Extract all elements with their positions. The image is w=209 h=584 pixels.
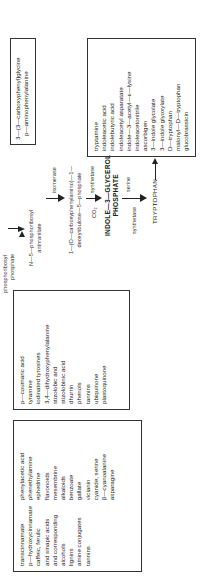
product-item: p—coumaric acid	[18, 296, 26, 404]
product-item: caffeic, ferulic	[34, 506, 42, 566]
product-item: tryptamine	[92, 44, 100, 151]
product-item: mesembrine	[51, 453, 59, 500]
product-item: glucobrassicin	[182, 44, 190, 151]
product-item: indoleacetyl asparatate	[117, 44, 125, 151]
product-item: asparagine	[108, 453, 116, 500]
product-item: 3,4—dihydroxyphenylalanine	[43, 296, 51, 404]
label-line: phosphate	[9, 254, 16, 294]
phosphoribosyl-phosphate: phosphoribosyl phosphate	[2, 254, 16, 294]
arrow-icon	[18, 226, 25, 232]
product-item: plastoquinone	[100, 296, 108, 404]
tyrosine-products-box: p—coumaric acid tyramine iodinated tyros…	[13, 290, 130, 410]
tryptophan: TRYPTOPHAN	[151, 179, 159, 224]
indole-3-glycerol-phosphate: INDOLE—3—GLYCEROL PHOSPHATE	[104, 155, 120, 236]
product-item: tannins	[84, 506, 92, 566]
arrow-right-icon	[155, 160, 156, 180]
product-item: 3—indole glyoxylate	[158, 44, 166, 151]
product-item: phenols	[75, 296, 83, 404]
product-item: indole—3—acetyl—ε—lysine	[125, 44, 133, 151]
product-item: indoleacetic acid	[100, 44, 108, 151]
label-line: 1—(O—carboxyphenylamino)—1—	[68, 166, 76, 254]
label-line: deoxyribulose—5—phosphate	[76, 166, 84, 254]
arrow-down-icon	[22, 233, 23, 234]
n5-phosphoribosyl-anthranilate: N—5—phosphoribosyl anthranilate	[28, 210, 43, 266]
label-line: phosphoribosyl	[2, 254, 9, 294]
product-item: malonyl—D—tryptophan	[174, 44, 182, 151]
product-item: alkaloids	[59, 453, 67, 500]
synthetase-label: synthetase	[130, 207, 138, 234]
product-item: gallate	[75, 453, 83, 500]
synthetase-label: synthetase	[88, 166, 96, 193]
product-item: 3—indole glycolate	[149, 44, 157, 151]
label-line: N—5—phosphoribosyl	[28, 210, 36, 266]
product-item: lignins	[67, 506, 75, 566]
product-item: iodinated tyrosines	[34, 296, 42, 404]
product-item: cyanide, serine	[92, 453, 100, 500]
isomerase-label: isomerase	[50, 167, 58, 193]
product-item: β—cyanoalanine	[100, 453, 108, 500]
label-line: INDOLE—3—GLYCEROL	[104, 155, 112, 236]
arrow-icon	[95, 195, 102, 203]
co2-label: CO₂	[90, 207, 98, 218]
product-item: stizolobinic acid	[59, 296, 67, 404]
label-line: anthranilate	[36, 210, 44, 266]
product-item: alcohols	[59, 506, 67, 566]
pathway-line	[122, 198, 142, 199]
product-item: indolebutyric acid	[108, 44, 116, 151]
biosynthesis-diagram: transcinnamate p—hydroxycinnamate caffei…	[0, 0, 209, 584]
product-item: p—hydroxycinnamate	[26, 506, 34, 566]
tryptophan-products-box: tryptamine indoleacetic acid indolebutyr…	[87, 38, 196, 157]
product-item: vicianin	[84, 453, 92, 500]
product-item: amine conjugates	[75, 506, 83, 566]
product-item: dhurrin	[67, 296, 75, 404]
product-item: tyramine	[26, 296, 34, 404]
arrow-icon	[58, 195, 65, 203]
product-item: ascorbigen	[141, 44, 149, 151]
product-item: D—tryptophan	[166, 44, 174, 151]
phenylalanine-products-box: transcinnamate p—hydroxycinnamate caffei…	[13, 420, 142, 572]
product-item: phenylacetic acid	[18, 453, 26, 500]
product-item: p—aminophenylalanine	[22, 43, 30, 140]
serine-label: serine	[124, 177, 132, 192]
product-item: indoleacetonitrile	[133, 44, 141, 151]
phenylalanine-products-col1: transcinnamate p—hydroxycinnamate caffei…	[18, 506, 116, 566]
arrow-icon	[140, 195, 147, 203]
product-item: and corresponding	[51, 506, 59, 566]
cdrp: 1—(O—carboxyphenylamino)—1— deoxyribulos…	[68, 166, 83, 254]
label-line: PHOSPHATE	[112, 155, 120, 236]
product-item: ubiquinone	[92, 296, 100, 404]
product-item: phenethylamine	[26, 453, 34, 500]
other-products-box: 3—(3—carboxyphenyl)glycine p—aminophenyl…	[10, 38, 36, 145]
product-item: flavonoids	[43, 453, 51, 500]
product-item: stizolobic and	[51, 296, 59, 404]
product-item: ephedrine	[34, 453, 42, 500]
product-item: 3—(3—carboxyphenyl)glycine	[14, 43, 22, 140]
product-item: transcinnamate	[18, 506, 26, 566]
product-item: tannins	[84, 296, 92, 404]
product-item: benzoate	[67, 453, 75, 500]
product-item: and sinapic acids	[43, 506, 51, 566]
phenylalanine-products-col2: phenylacetic acid phenethylamine ephedri…	[18, 453, 116, 500]
